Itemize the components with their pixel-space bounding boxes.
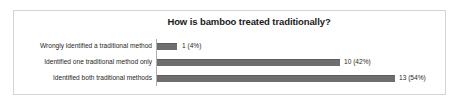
category-label: Identified one traditional method only	[14, 58, 152, 66]
category-label: Wrongly identified a traditional method	[14, 42, 152, 50]
value-label: 13 (54%)	[399, 74, 426, 82]
chart-frame: How is bamboo treated traditionally? Wro…	[13, 10, 446, 95]
bar-both-methods[interactable]	[157, 75, 395, 82]
bar-row: Identified both traditional methods 13 (…	[14, 71, 447, 87]
bar-row: Identified one traditional method only 1…	[14, 55, 447, 71]
bar-wrongly-identified[interactable]	[157, 43, 177, 50]
plot-area: Wrongly identified a traditional method …	[14, 39, 447, 89]
value-label: 1 (4%)	[182, 42, 201, 50]
value-label: 10 (42%)	[344, 58, 371, 66]
chart-title: How is bamboo treated traditionally?	[154, 16, 344, 27]
bar-row: Wrongly identified a traditional method …	[14, 39, 447, 55]
category-label: Identified both traditional methods	[14, 74, 152, 82]
bar-one-method-only[interactable]	[157, 59, 340, 66]
